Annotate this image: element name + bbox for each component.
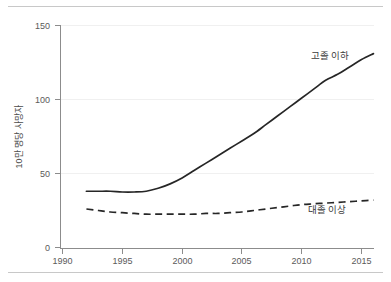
x-tick-label-1990: 1990 — [52, 256, 72, 266]
y-tick-label-100: 100 — [35, 95, 50, 105]
series-label-high-school: 고졸 이하 — [311, 50, 350, 61]
series-label-college: 대졸 이상 — [308, 204, 347, 215]
y-tick-label-50: 50 — [40, 169, 50, 179]
x-tick-label-2015: 2015 — [351, 256, 371, 266]
y-axis-title: 10만 명당 사망자 — [14, 104, 24, 168]
x-tick-label-2000: 2000 — [172, 256, 192, 266]
y-axis-label-text: 10만 명당 사망자 — [14, 104, 24, 168]
x-tick-label-2005: 2005 — [231, 256, 251, 266]
x-tick-label-2010: 2010 — [291, 256, 311, 266]
y-tick-label-150: 150 — [35, 21, 50, 31]
chart-figure: 150 100 50 0 10만 명당 사망자 1990 1995 2000 2… — [0, 0, 391, 282]
gridlines — [60, 25, 374, 173]
x-tick-label-1995: 1995 — [112, 256, 132, 266]
series-annotations: 고졸 이하 대졸 이상 — [308, 50, 350, 215]
plot-area-wrapper: 150 100 50 0 10만 명당 사망자 1990 1995 2000 2… — [0, 0, 391, 282]
y-axis: 150 100 50 0 — [35, 21, 61, 253]
line-chart-svg: 150 100 50 0 10만 명당 사망자 1990 1995 2000 2… — [0, 0, 391, 282]
data-series-group — [86, 54, 373, 215]
x-axis: 1990 1995 2000 2005 2010 2015 — [52, 249, 374, 267]
y-tick-label-0: 0 — [45, 243, 50, 253]
series-line-high-school — [86, 54, 373, 192]
